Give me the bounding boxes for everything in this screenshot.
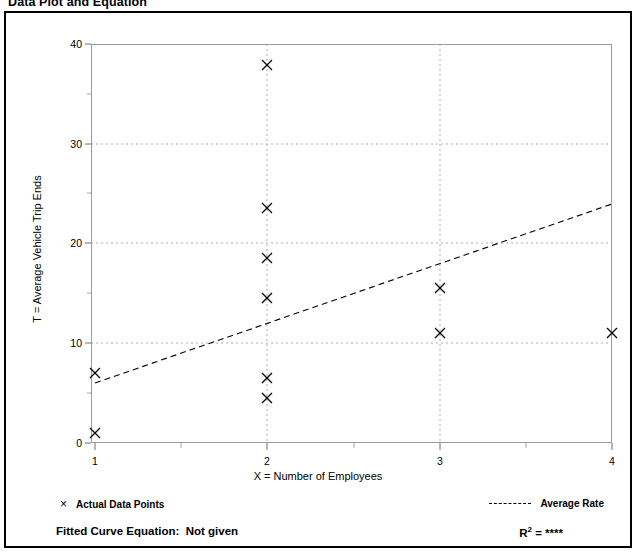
r-squared-value: R2 = ****: [519, 525, 563, 539]
legend-actual-data-points: × Actual Data Points: [60, 498, 164, 510]
legend-actual-label: Actual Data Points: [76, 499, 164, 510]
x-tick-label-4: 4: [597, 455, 627, 467]
y-axis-title: T = Average Vehicle Trip Ends: [31, 149, 43, 349]
y-tick-label-40: 40: [54, 38, 82, 50]
x-tick-label-1: 1: [80, 455, 110, 467]
plot-area: [91, 44, 612, 443]
r-squared-result: = ****: [532, 527, 563, 539]
y-tick-label-30: 30: [54, 138, 82, 150]
page-title: Data Plot and Equation: [8, 0, 147, 9]
dashed-line-icon: [489, 503, 531, 504]
y-tick-label-20: 20: [54, 237, 82, 249]
r-squared-prefix: R: [519, 527, 527, 539]
fitted-curve-equation: Fitted Curve Equation: Not given: [56, 525, 238, 537]
x-tick-label-3: 3: [425, 455, 455, 467]
y-tick-label-0: 0: [54, 437, 82, 449]
x-tick-label-2: 2: [252, 455, 282, 467]
x-axis-title: X = Number of Employees: [0, 470, 636, 482]
legend-average-rate-label: Average Rate: [540, 498, 604, 509]
legend-average-rate: Average Rate: [489, 498, 604, 509]
y-tick-label-10: 10: [54, 337, 82, 349]
cross-marker-icon: ×: [60, 498, 67, 510]
